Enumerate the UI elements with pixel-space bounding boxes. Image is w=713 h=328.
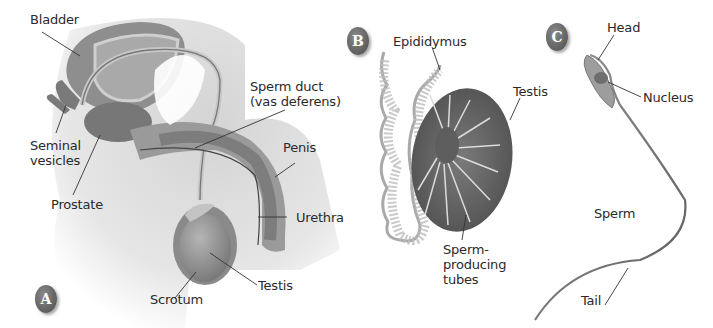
label-prostate: Prostate [51,197,103,212]
label-urethra: Urethra [296,210,344,225]
label-epididymus: Epididymus [393,34,467,49]
panel-c-badge: C [546,23,568,51]
reproductive-diagram: A Bladder Seminal vesicles Prostate Sper… [0,0,713,328]
panel-c-illustration [535,35,685,320]
label-penis: Penis [283,140,316,155]
label-seminal-vesicles: Seminal vesicles [30,138,81,168]
panel-a-illustration [42,18,340,328]
label-scrotum: Scrotum [150,292,203,307]
label-sperm: Sperm [594,206,635,221]
label-testis-b: Testis [513,84,548,99]
label-head: Head [607,20,640,35]
label-bladder: Bladder [30,12,79,27]
label-tail: Tail [581,293,601,308]
label-nucleus: Nucleus [643,90,693,105]
panel-b-badge: B [347,27,369,55]
panel-b-illustration [381,47,522,241]
label-sperm-producing-tubes: Sperm- producing tubes [443,242,506,287]
label-testis-a: Testis [258,278,293,293]
panel-a-badge: A [35,285,57,313]
label-sperm-duct: Sperm duct (vas deferens) [250,79,341,109]
